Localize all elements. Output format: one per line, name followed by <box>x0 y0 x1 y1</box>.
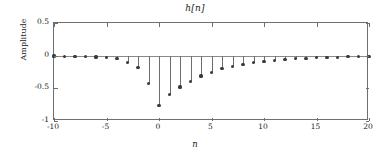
stem-line <box>149 56 150 84</box>
x-tick <box>317 118 318 122</box>
x-tick <box>264 23 265 27</box>
x-tick <box>264 118 265 122</box>
stem-line <box>170 56 171 95</box>
stem-marker <box>199 74 202 77</box>
y-tick <box>54 23 58 24</box>
x-tick <box>212 118 213 122</box>
stem-line <box>180 56 181 87</box>
y-tick-label: -0.5 <box>21 82 49 91</box>
y-axis-label: Amplitude <box>19 0 28 90</box>
stem-marker <box>304 57 307 60</box>
x-tick-label: 0 <box>143 122 173 131</box>
x-tick-label: -5 <box>91 122 121 131</box>
y-tick <box>54 88 58 89</box>
stem-marker <box>84 55 87 58</box>
y-tick-label: 0 <box>21 50 49 59</box>
stem-marker <box>315 56 318 59</box>
stem-marker <box>210 71 213 74</box>
stem-marker <box>325 56 328 59</box>
stem-marker <box>115 57 118 60</box>
stem-marker <box>283 58 286 61</box>
x-tick <box>159 118 160 122</box>
y-tick-label: 0.5 <box>21 17 49 26</box>
x-tick <box>212 23 213 27</box>
x-tick <box>107 23 108 27</box>
zero-baseline <box>54 56 367 57</box>
stem-marker <box>252 61 255 64</box>
stem-marker <box>336 56 339 59</box>
x-tick <box>369 118 370 122</box>
stem-marker <box>63 55 66 58</box>
y-tick <box>366 23 370 24</box>
x-tick-label: 5 <box>196 122 226 131</box>
x-tick <box>107 118 108 122</box>
stem-marker <box>136 66 139 69</box>
chart-title: h[n] <box>0 3 390 13</box>
stem-marker <box>231 65 234 68</box>
stem-marker <box>294 57 297 60</box>
stem-marker <box>126 61 129 64</box>
x-axis-label: n <box>0 139 390 149</box>
plot-area <box>53 22 368 120</box>
stem-marker <box>105 56 108 59</box>
stem-marker <box>178 85 181 88</box>
x-tick <box>369 23 370 27</box>
x-tick-label: 15 <box>301 122 331 131</box>
stem-marker <box>157 104 160 107</box>
stem-marker <box>94 55 97 58</box>
stem-line <box>191 56 192 81</box>
stem-marker <box>241 63 244 66</box>
stem-marker <box>273 59 276 62</box>
x-tick <box>159 23 160 27</box>
stem-marker <box>262 60 265 63</box>
figure: h[n] Amplitude n -10-505101520 0.50-0.5-… <box>0 0 390 156</box>
stem-marker <box>189 80 192 83</box>
y-tick <box>366 56 370 57</box>
stem-marker <box>346 55 349 58</box>
y-tick-label: -1 <box>21 115 49 124</box>
stem-marker <box>357 55 360 58</box>
x-tick-label: 10 <box>248 122 278 131</box>
stem-marker <box>147 82 150 85</box>
stem-marker <box>73 55 76 58</box>
stem-line <box>201 56 202 76</box>
y-tick <box>366 88 370 89</box>
stem-line <box>159 56 160 106</box>
stem-marker <box>220 67 223 70</box>
y-tick <box>54 56 58 57</box>
stem-marker <box>168 93 171 96</box>
x-tick <box>317 23 318 27</box>
x-tick-label: 20 <box>353 122 383 131</box>
